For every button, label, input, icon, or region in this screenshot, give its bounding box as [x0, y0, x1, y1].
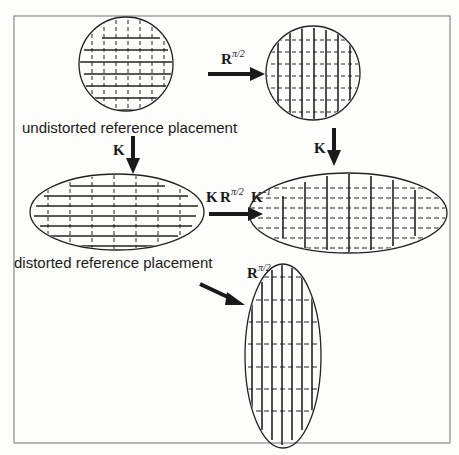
k-arrow-right: K — [314, 128, 341, 166]
diagram-canvas: R π/2 un — [0, 0, 459, 455]
conjugated-ellipse — [249, 173, 447, 253]
rotated-circle — [264, 26, 362, 120]
rotation-diag-exponent: π/2 — [258, 262, 271, 273]
k-right-label: K — [314, 140, 326, 156]
rotation-diag-base: R — [247, 265, 258, 281]
undistorted-circle — [79, 17, 174, 115]
conjugate-k1: K — [206, 189, 218, 205]
distorted-ellipse — [30, 174, 204, 250]
rotated-ellipse — [240, 264, 326, 448]
conjugate-arrow: K R π/2 K -1 — [206, 186, 271, 221]
k-arrow-left: K — [113, 136, 140, 174]
rotation-top-base: R — [221, 51, 232, 67]
conjugate-r: R — [220, 189, 231, 205]
rotation-arrow-top: R π/2 — [208, 48, 265, 81]
conjugate-r-exponent: π/2 — [231, 186, 244, 197]
caption-distorted: distorted reference placement — [14, 254, 213, 271]
figure-frame — [14, 16, 450, 443]
rotation-top-exponent: π/2 — [232, 48, 245, 59]
k-left-label: K — [113, 142, 125, 158]
caption-undistorted: undistorted reference placement — [22, 119, 238, 136]
